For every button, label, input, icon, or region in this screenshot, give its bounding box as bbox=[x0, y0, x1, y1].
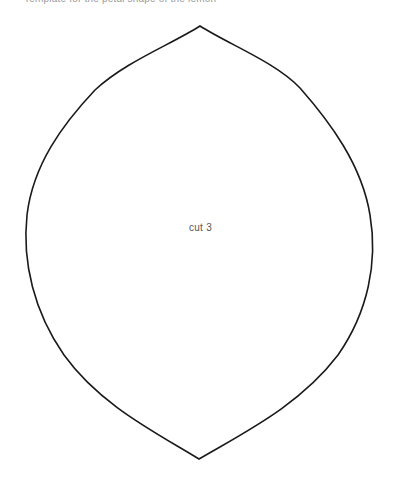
template-page: Template for the petal shape of the lemo… bbox=[0, 0, 401, 483]
petal-template-outline bbox=[0, 0, 401, 483]
cut-instruction-label: cut 3 bbox=[0, 222, 401, 233]
petal-outline-path bbox=[26, 26, 373, 459]
